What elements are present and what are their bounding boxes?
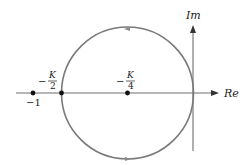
svg-text:4: 4 <box>128 81 134 91</box>
imag-axis-label: Im <box>185 9 201 22</box>
label-minus-one: −1 <box>26 97 41 108</box>
real-axis-arrow-icon <box>211 90 219 96</box>
label-minus-k-half: − K 2 <box>38 70 57 91</box>
point-minus-k-quarter <box>125 91 130 96</box>
svg-text:−: − <box>116 76 124 87</box>
circle-direction-bottom-icon <box>125 157 131 161</box>
point-minus-k-half <box>59 91 64 96</box>
real-axis-label: Re <box>223 87 239 100</box>
svg-text:K: K <box>126 70 135 80</box>
real-axis <box>16 90 219 96</box>
point-minus-one <box>31 91 36 96</box>
svg-text:−: − <box>38 76 46 87</box>
svg-text:K: K <box>48 70 57 80</box>
label-minus-k-quarter: − K 4 <box>116 70 135 91</box>
imag-axis-arrow-icon <box>190 25 196 33</box>
svg-text:2: 2 <box>50 81 56 91</box>
nyquist-diagram: Im Re −1 − K 2 − K 4 <box>0 0 247 165</box>
